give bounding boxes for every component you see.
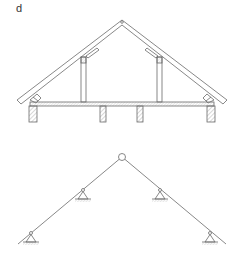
right-member bbox=[125, 159, 227, 244]
apex-hinge-icon bbox=[119, 154, 126, 161]
ceiling-joist bbox=[30, 102, 214, 106]
left-member bbox=[18, 159, 120, 244]
interior-post-right bbox=[137, 106, 143, 122]
right-purlin bbox=[145, 48, 158, 58]
left-wall bbox=[29, 106, 37, 122]
right-rafter bbox=[122, 20, 227, 104]
pinned-support-icon bbox=[152, 189, 168, 203]
left-rafter bbox=[17, 20, 122, 104]
left-purlin bbox=[86, 48, 99, 58]
roof-section bbox=[17, 20, 227, 122]
right-stud bbox=[157, 57, 162, 102]
pinned-support-icon bbox=[75, 189, 91, 203]
right-wall bbox=[207, 106, 215, 122]
ridge-joint-icon bbox=[121, 21, 124, 24]
interior-post-left bbox=[100, 106, 106, 122]
structural-model bbox=[18, 154, 226, 246]
pinned-support-icon bbox=[202, 232, 218, 246]
left-stud bbox=[81, 57, 86, 102]
roof-structure-figure bbox=[0, 0, 235, 257]
